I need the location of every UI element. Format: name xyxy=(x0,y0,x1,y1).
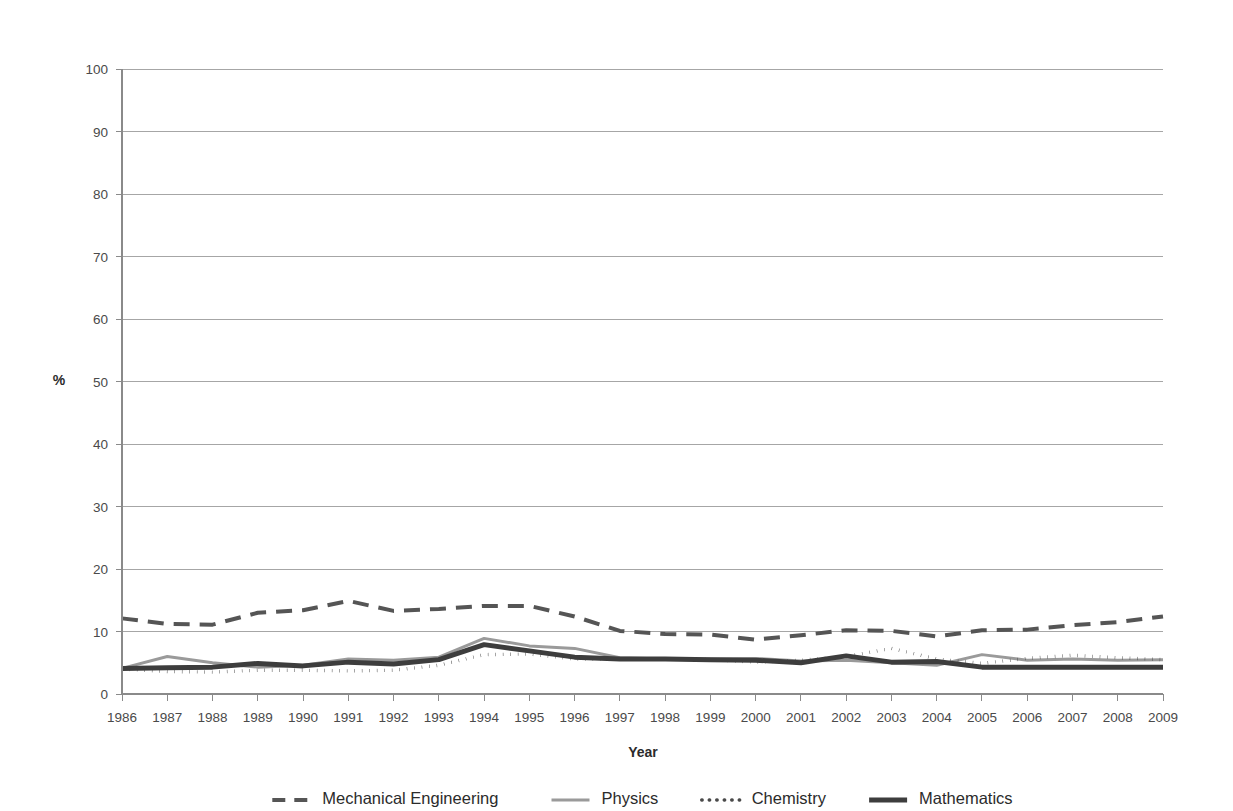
x-tick-label: 1991 xyxy=(333,710,363,725)
y-tick-label: 20 xyxy=(93,562,108,577)
x-tick-label: 1987 xyxy=(152,710,182,725)
x-tick-label: 2002 xyxy=(831,710,861,725)
legend-label: Physics xyxy=(602,789,659,807)
legend-item-mechanical-engineering[interactable]: Mechanical Engineering xyxy=(272,789,498,807)
line-chart: 0102030405060708090100 19861987198819891… xyxy=(0,0,1233,811)
legend-item-physics[interactable]: Physics xyxy=(552,789,659,807)
legend-label: Mathematics xyxy=(919,789,1013,807)
y-tick-label: 40 xyxy=(93,437,108,452)
legend-label: Chemistry xyxy=(752,789,827,807)
y-tick-label: 30 xyxy=(93,500,108,515)
y-axis-title: % xyxy=(53,372,66,388)
x-axis xyxy=(122,694,1163,701)
legend-item-mathematics[interactable]: Mathematics xyxy=(869,789,1013,807)
x-tick-label: 1992 xyxy=(379,710,409,725)
x-tick-label: 1996 xyxy=(560,710,590,725)
legend-item-chemistry[interactable]: Chemistry xyxy=(702,789,827,807)
y-tick-label: 80 xyxy=(93,187,108,202)
y-axis-tick-marks xyxy=(116,69,122,694)
y-tick-label: 70 xyxy=(93,250,108,265)
x-tick-label: 1997 xyxy=(605,710,635,725)
gridlines xyxy=(122,69,1163,694)
x-tick-label: 2001 xyxy=(786,710,816,725)
x-tick-label: 2005 xyxy=(967,710,997,725)
y-tick-label: 0 xyxy=(100,687,108,702)
x-tick-label: 2009 xyxy=(1148,710,1178,725)
y-tick-label: 100 xyxy=(85,62,108,77)
x-tick-label: 2008 xyxy=(1103,710,1133,725)
y-tick-label: 50 xyxy=(93,375,108,390)
x-tick-label: 1995 xyxy=(514,710,544,725)
x-tick-label: 2004 xyxy=(922,710,953,725)
y-tick-label: 10 xyxy=(93,625,108,640)
x-tick-label: 1994 xyxy=(469,710,500,725)
data-series xyxy=(122,601,1163,672)
x-tick-label: 2000 xyxy=(741,710,771,725)
x-axis-tick-labels: 1986198719881989199019911992199319941995… xyxy=(107,710,1178,725)
x-tick-label: 2003 xyxy=(876,710,906,725)
y-tick-label: 90 xyxy=(93,125,108,140)
x-tick-label: 1990 xyxy=(288,710,318,725)
x-tick-label: 1988 xyxy=(197,710,227,725)
x-tick-label: 1999 xyxy=(695,710,725,725)
x-tick-label: 2007 xyxy=(1057,710,1087,725)
x-tick-label: 2006 xyxy=(1012,710,1042,725)
chart-container: 0102030405060708090100 19861987198819891… xyxy=(0,0,1233,811)
y-axis-tick-labels: 0102030405060708090100 xyxy=(85,62,108,702)
x-tick-label: 1993 xyxy=(424,710,454,725)
y-tick-label: 60 xyxy=(93,312,108,327)
chart-legend: Mechanical EngineeringPhysicsChemistryMa… xyxy=(272,789,1012,807)
x-axis-title: Year xyxy=(628,744,658,760)
legend-label: Mechanical Engineering xyxy=(322,789,498,807)
x-tick-label: 1989 xyxy=(243,710,273,725)
x-tick-label: 1998 xyxy=(650,710,680,725)
series-line-mechanical-engineering xyxy=(122,601,1163,640)
x-tick-label: 1986 xyxy=(107,710,137,725)
